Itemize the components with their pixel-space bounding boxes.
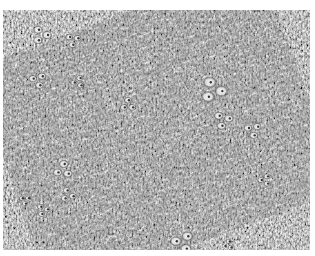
tissue-texture [3,10,310,250]
micrograph-image [3,10,310,250]
